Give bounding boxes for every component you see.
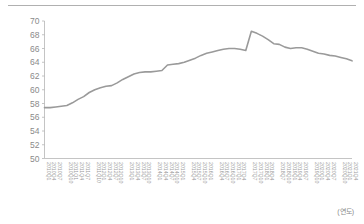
x-tick-label: 2017Q1: [236, 162, 242, 181]
x-tick-label: 2015Q1: [180, 162, 186, 181]
x-tick-label: 2020Q4: [325, 162, 331, 181]
x-tick-label: 2018Q10: [286, 162, 292, 183]
line-chart-svg: 5052545658606264666870 2010Q12010Q42010Q…: [0, 0, 364, 224]
x-tick-label: 2021Q4: [353, 162, 359, 181]
x-tick-label: 2014Q7: [169, 162, 175, 181]
x-tick-label: 2014Q1: [157, 162, 163, 181]
x-tick-label: 2013Q7: [141, 162, 147, 181]
y-axis: 5052545658606264666870: [30, 16, 352, 164]
x-tick-label: 2018Q1: [264, 162, 270, 181]
x-tick-label: 2014Q10: [174, 162, 180, 183]
x-tick-label: 2017Q7: [252, 162, 258, 181]
y-tick-label: 58: [30, 99, 40, 109]
y-tick-label: 54: [30, 126, 40, 136]
x-tick-label: 2021Q1: [347, 162, 353, 181]
x-tick-label: 2020Q7: [331, 162, 337, 181]
x-axis: 2010Q12010Q42010Q72010Q102011Q12011Q4201…: [46, 162, 360, 183]
y-tick-label: 64: [30, 57, 40, 67]
y-tick-label: 70: [30, 16, 40, 26]
x-tick-label: 2019Q4: [297, 162, 303, 181]
x-tick-label: 2010Q10: [68, 162, 74, 183]
y-tick-label: 66: [30, 44, 40, 54]
x-tick-label: 2014Q4: [163, 162, 169, 181]
x-tick-label: 2019Q1: [292, 162, 298, 181]
x-tick-label: 2012Q10: [118, 162, 124, 183]
x-tick-label: 2019Q10: [314, 162, 320, 183]
x-axis-unit-label: (연도): [337, 206, 354, 216]
x-tick-label: 2012Q1: [101, 162, 107, 181]
x-tick-label: 2016Q4: [219, 162, 225, 181]
x-tick-label: 2012Q7: [113, 162, 119, 181]
x-tick-label: 2015Q10: [202, 162, 208, 183]
y-tick-label: 60: [30, 85, 40, 95]
y-tick-label: 50: [30, 154, 40, 164]
x-tick-label: 2016Q7: [224, 162, 230, 181]
x-tick-label: 2018Q7: [280, 162, 286, 181]
employment-rate-line: [45, 31, 353, 107]
x-tick-label: 2011Q7: [85, 162, 91, 180]
x-tick-label: 2015Q4: [191, 162, 197, 181]
x-tick-label: 2016Q1: [208, 162, 214, 181]
y-tick-label: 62: [30, 71, 40, 81]
x-tick-label: 2011Q4: [79, 162, 85, 180]
x-tick-label: 2019Q7: [303, 162, 309, 181]
x-tick-label: 2012Q4: [107, 162, 113, 181]
x-tick-label: 2018Q4: [269, 162, 275, 181]
x-tick-label: 2011Q10: [96, 162, 102, 183]
chart-plot-area: 5052545658606264666870 2010Q12010Q42010Q…: [0, 0, 364, 224]
y-tick-label: 56: [30, 112, 40, 122]
axis-lines: [45, 21, 353, 159]
x-tick-label: 2010Q1: [46, 162, 52, 181]
x-tick-label: 2020Q1: [319, 162, 325, 181]
x-tick-label: 2010Q4: [51, 162, 57, 181]
x-tick-label: 2013Q4: [135, 162, 141, 181]
x-tick-label: 2013Q10: [146, 162, 152, 183]
chart-page: 5052545658606264666870 2010Q12010Q42010Q…: [0, 0, 364, 224]
x-tick-label: 2010Q7: [57, 162, 63, 181]
x-tick-label: 2016Q10: [230, 162, 236, 183]
x-tick-label: 2017Q10: [258, 162, 264, 183]
x-tick-label: 2020Q10: [342, 162, 348, 183]
data-series-group: [45, 31, 353, 107]
x-tick-label: 2011Q1: [73, 162, 79, 180]
y-tick-label: 68: [30, 30, 40, 40]
y-tick-label: 52: [30, 140, 40, 150]
x-tick-label: 2017Q4: [241, 162, 247, 181]
x-tick-label: 2015Q7: [196, 162, 202, 181]
x-tick-label: 2013Q1: [129, 162, 135, 181]
